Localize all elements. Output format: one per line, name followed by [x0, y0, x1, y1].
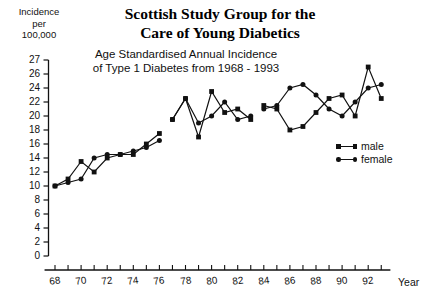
y-tick-label: 4	[16, 223, 40, 233]
x-tick-label: 84	[255, 275, 272, 287]
x-tick-label: 92	[360, 275, 377, 287]
x-tick-label: 80	[203, 275, 220, 287]
x-tick-label: 82	[229, 275, 246, 287]
series-female	[53, 82, 384, 189]
y-tick-label: 18	[16, 125, 40, 135]
legend-item-female: female	[336, 153, 393, 166]
y-tick-label: 16	[16, 139, 40, 149]
chart-page: Incidence per 100,000 Scottish Study Gro…	[0, 0, 432, 301]
x-tick-label: 90	[334, 275, 351, 287]
x-axis-title: Year	[398, 276, 419, 288]
y-tick-label: 12	[16, 167, 40, 177]
y-tick-label: 6	[16, 209, 40, 219]
legend-marker-square-icon	[336, 142, 357, 151]
y-tick-label: 20	[16, 111, 40, 121]
y-tick-label: 0	[16, 251, 40, 261]
y-tick-label: 22	[16, 97, 40, 107]
y-tick-label: 10	[16, 181, 40, 191]
y-tick-label: 24	[16, 83, 40, 93]
y-tick-label: 8	[16, 195, 40, 205]
legend-item-male: male	[336, 140, 393, 153]
legend-label-female: female	[361, 153, 393, 166]
x-tick-label: 74	[125, 275, 142, 287]
x-tick-label: 88	[307, 275, 324, 287]
legend-label-male: male	[361, 140, 384, 153]
x-tick-label: 72	[99, 275, 116, 287]
legend-marker-circle-icon	[336, 155, 357, 164]
x-tick-label: 70	[73, 275, 90, 287]
series-male	[53, 65, 384, 189]
x-tick-label: 76	[151, 275, 168, 287]
x-tick-label: 78	[177, 275, 194, 287]
y-tick-label: 26	[16, 69, 40, 79]
y-tick-label: 2	[16, 237, 40, 247]
y-tick-label: 14	[16, 153, 40, 163]
chart-legend: male female	[336, 140, 393, 166]
y-tick-label: 27	[16, 55, 40, 65]
x-tick-label: 68	[46, 275, 63, 287]
x-tick-label: 86	[281, 275, 298, 287]
